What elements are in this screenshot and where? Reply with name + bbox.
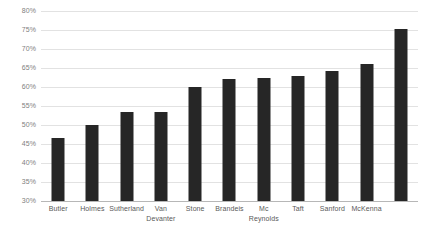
plot-area <box>41 11 418 201</box>
bar-slot <box>315 11 349 201</box>
y-axis-tick-label: 35% <box>22 178 36 186</box>
bar[interactable] <box>257 78 270 201</box>
bar[interactable] <box>189 87 202 201</box>
bar-slot <box>212 11 246 201</box>
bar-slot <box>144 11 178 201</box>
bar-slot <box>349 11 383 201</box>
y-axis-tick-label: 50% <box>22 121 36 129</box>
y-axis-tick-label: 55% <box>22 102 36 110</box>
bar[interactable] <box>120 112 133 201</box>
y-axis-tick-label: 40% <box>22 159 36 167</box>
y-axis-tick-label: 60% <box>22 83 36 91</box>
bar[interactable] <box>154 112 167 201</box>
bar[interactable] <box>394 29 407 201</box>
bar-slot <box>384 11 418 201</box>
bar-slot <box>281 11 315 201</box>
bar[interactable] <box>223 79 236 201</box>
axis-baseline <box>41 201 418 202</box>
y-axis: 30%35%40%45%50%55%60%65%70%75%80% <box>0 0 41 233</box>
bar-slot <box>110 11 144 201</box>
bar-slot <box>178 11 212 201</box>
x-axis-tick-label: McKenna <box>332 204 401 214</box>
bar[interactable] <box>52 138 65 201</box>
x-axis: ButlerHolmesSutherlandVan DevanterStoneB… <box>41 204 418 233</box>
bar[interactable] <box>86 125 99 201</box>
bar[interactable] <box>326 71 339 201</box>
y-axis-tick-label: 70% <box>22 45 36 53</box>
y-axis-tick-label: 80% <box>22 7 36 15</box>
bar-slot <box>247 11 281 201</box>
bar-slot <box>75 11 109 201</box>
y-axis-tick-label: 65% <box>22 64 36 72</box>
y-axis-tick-label: 75% <box>22 26 36 34</box>
bar[interactable] <box>292 76 305 201</box>
bar-chart: 30%35%40%45%50%55%60%65%70%75%80% Butler… <box>0 0 436 233</box>
bar-slot <box>41 11 75 201</box>
bar[interactable] <box>360 64 373 201</box>
y-axis-tick-label: 45% <box>22 140 36 148</box>
